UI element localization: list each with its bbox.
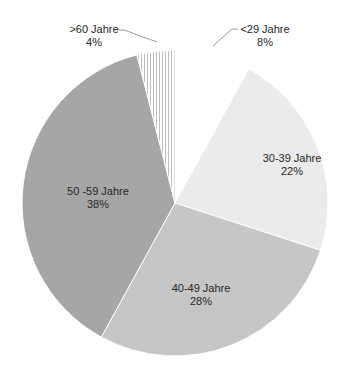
label-50-59-pct: 38% <box>87 198 109 210</box>
pie-chart: >60 Jahre 4% <29 Jahre 8% 30-39 Jahre 22… <box>0 0 343 376</box>
label-30-39-pct: 22% <box>281 165 303 177</box>
leader-line-lt29 <box>213 29 238 46</box>
label-40-49-pct: 28% <box>190 295 212 307</box>
label-gt60: >60 Jahre 4% <box>69 23 118 48</box>
label-50-59-name: 50 -59 Jahre <box>67 185 129 197</box>
pie-slices <box>22 50 328 356</box>
label-40-49-name: 40-49 Jahre <box>172 282 231 294</box>
leader-line-gt60 <box>118 30 157 42</box>
label-gt60-pct: 4% <box>86 36 102 48</box>
label-lt29-pct: 8% <box>257 36 273 48</box>
label-lt29: <29 Jahre 8% <box>240 23 289 48</box>
label-lt29-name: <29 Jahre <box>240 23 289 35</box>
label-gt60-name: >60 Jahre <box>69 23 118 35</box>
label-30-39-name: 30-39 Jahre <box>263 152 322 164</box>
